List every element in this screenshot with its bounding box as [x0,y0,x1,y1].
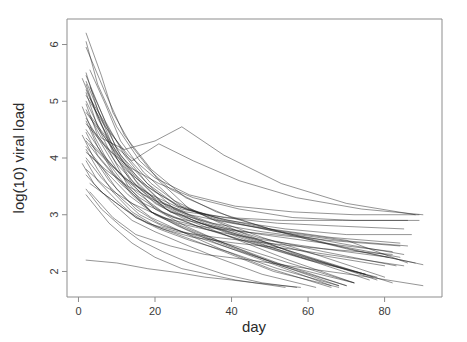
y-tick-label: 5 [48,98,60,104]
y-tick-label: 4 [48,155,60,161]
x-axis-title: day [242,318,267,335]
y-tick-label: 3 [48,212,60,218]
y-tick-label: 6 [48,41,60,47]
y-axis-title: log(10) viral load [10,103,27,214]
y-tick-label: 2 [48,268,60,274]
chart-figure: 020406080 23456 day log(10) viral load [0,0,467,342]
x-tick-label: 80 [378,305,390,317]
x-tick-label: 60 [302,305,314,317]
x-tick-label: 0 [75,305,81,317]
plot-background [0,0,467,342]
x-tick-label: 40 [225,305,237,317]
viral-load-spaghetti-plot: 020406080 23456 day log(10) viral load [0,0,467,342]
x-tick-label: 20 [149,305,161,317]
